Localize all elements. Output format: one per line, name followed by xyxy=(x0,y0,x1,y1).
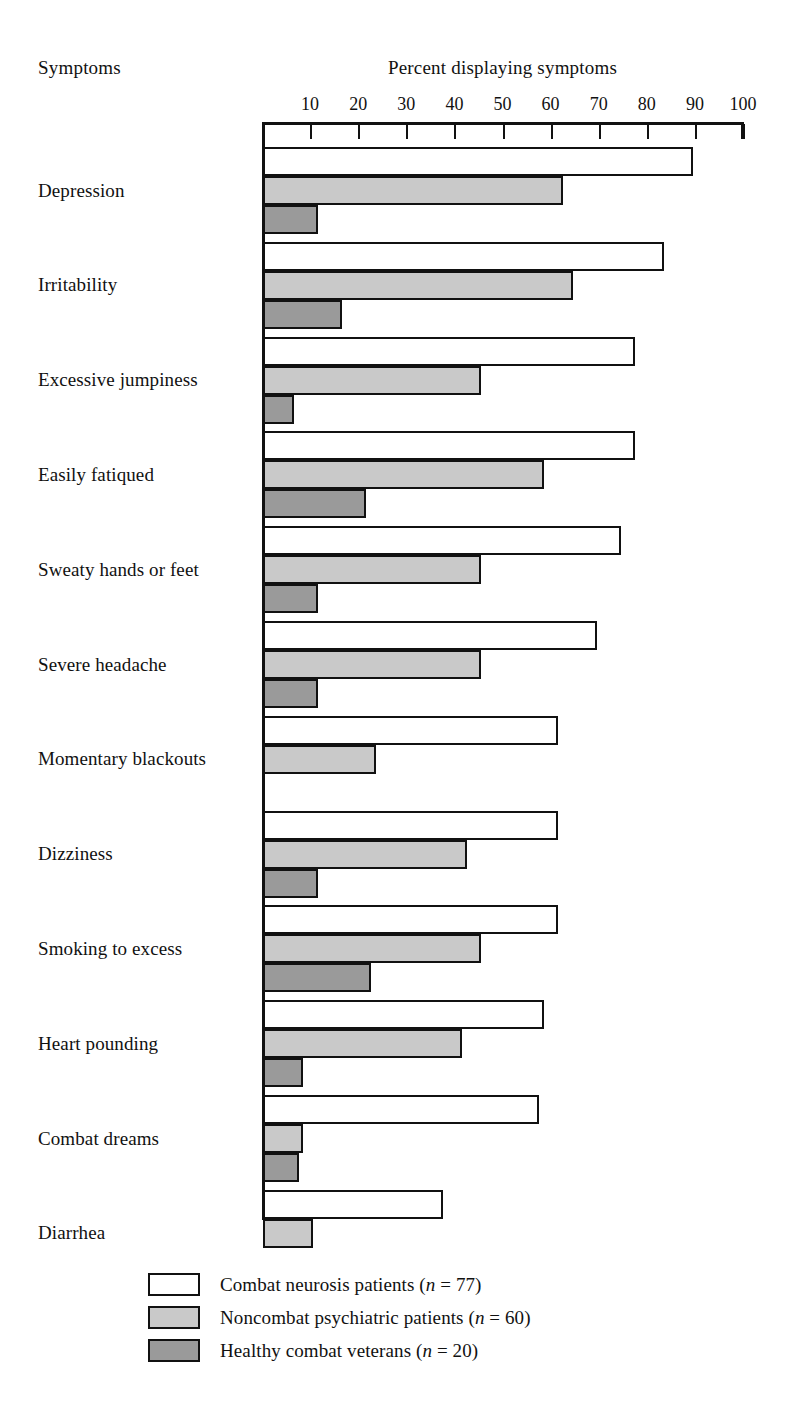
bar xyxy=(263,1190,443,1219)
category-label: Depression xyxy=(38,180,124,202)
bar xyxy=(263,147,693,176)
white-swatch xyxy=(148,1273,200,1296)
x-tick-label-70: 70 xyxy=(590,94,608,115)
bar xyxy=(263,621,597,650)
bar xyxy=(263,337,635,366)
legend-n-symbol: n xyxy=(475,1307,485,1328)
symptoms-bar-chart: Symptoms Percent displaying symptoms 102… xyxy=(0,0,804,1420)
bar xyxy=(263,1219,313,1248)
x-tick-label-80: 80 xyxy=(638,94,656,115)
x-tick-label-60: 60 xyxy=(542,94,560,115)
bar xyxy=(263,366,481,395)
x-tick-mark-100 xyxy=(743,124,745,139)
category-label: Heart pounding xyxy=(38,1033,158,1055)
column-header-symptoms: Symptoms xyxy=(38,57,121,79)
bar xyxy=(263,489,366,518)
bar xyxy=(263,431,635,460)
axis-baseline xyxy=(262,122,743,125)
bar xyxy=(263,526,621,555)
bar xyxy=(263,745,376,774)
bar xyxy=(263,934,481,963)
bar xyxy=(263,584,318,613)
bar xyxy=(263,905,558,934)
x-tick-mark-10 xyxy=(310,124,312,139)
bar xyxy=(263,1124,303,1153)
category-label: Sweaty hands or feet xyxy=(38,559,199,581)
x-tick-label-50: 50 xyxy=(494,94,512,115)
category-label: Momentary blackouts xyxy=(38,748,206,770)
x-tick-mark-50 xyxy=(503,124,505,139)
bar xyxy=(263,811,558,840)
x-tick-mark-60 xyxy=(551,124,553,139)
bar xyxy=(263,840,467,869)
bar xyxy=(263,1095,539,1124)
legend-label: Noncombat psychiatric patients (n = 60) xyxy=(220,1307,531,1329)
chart-axis-title: Percent displaying symptoms xyxy=(262,57,743,79)
bar xyxy=(263,963,371,992)
x-tick-label-40: 40 xyxy=(445,94,463,115)
x-tick-label-100: 100 xyxy=(730,94,757,115)
bar xyxy=(263,1058,303,1087)
chart-legend: Combat neurosis patients (n = 77)Noncomb… xyxy=(148,1268,668,1367)
legend-item: Healthy combat veterans (n = 20) xyxy=(148,1334,668,1367)
category-label: Smoking to excess xyxy=(38,938,182,960)
bar xyxy=(263,460,544,489)
bar xyxy=(263,395,294,424)
category-label: Easily fatiqued xyxy=(38,464,154,486)
x-tick-mark-70 xyxy=(599,124,601,139)
x-tick-mark-20 xyxy=(358,124,360,139)
legend-item: Combat neurosis patients (n = 77) xyxy=(148,1268,668,1301)
x-tick-label-10: 10 xyxy=(301,94,319,115)
bar xyxy=(263,716,558,745)
bar xyxy=(263,555,481,584)
category-label: Combat dreams xyxy=(38,1128,159,1150)
x-tick-label-90: 90 xyxy=(686,94,704,115)
bar xyxy=(263,869,318,898)
bar xyxy=(263,1153,299,1182)
x-tick-mark-30 xyxy=(406,124,408,139)
axis-end-cap xyxy=(741,122,744,139)
dark-gray-swatch xyxy=(148,1339,200,1362)
x-tick-mark-80 xyxy=(647,124,649,139)
bar xyxy=(263,1000,544,1029)
legend-item: Noncombat psychiatric patients (n = 60) xyxy=(148,1301,668,1334)
x-tick-mark-90 xyxy=(695,124,697,139)
category-label: Severe headache xyxy=(38,654,167,676)
x-tick-label-30: 30 xyxy=(397,94,415,115)
bar xyxy=(263,176,563,205)
category-label: Dizziness xyxy=(38,843,113,865)
bar xyxy=(263,300,342,329)
legend-label: Combat neurosis patients (n = 77) xyxy=(220,1274,482,1296)
bar xyxy=(263,205,318,234)
x-tick-label-20: 20 xyxy=(349,94,367,115)
bar xyxy=(263,271,573,300)
light-gray-swatch xyxy=(148,1306,200,1329)
bar xyxy=(263,1029,462,1058)
bar xyxy=(263,650,481,679)
category-label: Diarrhea xyxy=(38,1222,105,1244)
category-label: Excessive jumpiness xyxy=(38,369,198,391)
x-tick-mark-40 xyxy=(454,124,456,139)
legend-n-symbol: n xyxy=(422,1340,432,1361)
bar xyxy=(263,242,664,271)
legend-label: Healthy combat veterans (n = 20) xyxy=(220,1340,478,1362)
bar xyxy=(263,679,318,708)
category-label: Irritability xyxy=(38,274,117,296)
legend-n-symbol: n xyxy=(426,1274,436,1295)
